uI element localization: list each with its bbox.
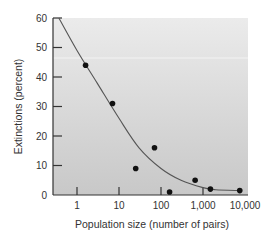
y-tick-label: 40 xyxy=(36,72,48,83)
data-point xyxy=(208,186,214,192)
x-tick-label: 10 xyxy=(113,200,125,211)
x-tick-label: 1 xyxy=(74,200,80,211)
data-point xyxy=(83,62,89,68)
y-tick-label: 20 xyxy=(36,131,48,142)
y-tick-label: 10 xyxy=(36,160,48,171)
y-axis-label: Extinctions (percent) xyxy=(12,59,24,155)
data-point xyxy=(110,101,116,107)
y-tick-label: 50 xyxy=(36,42,48,53)
data-point xyxy=(152,145,158,151)
x-tick-label: 10,000 xyxy=(230,200,261,211)
y-tick-label: 30 xyxy=(36,101,48,112)
data-point xyxy=(133,166,139,172)
data-point xyxy=(192,177,198,183)
x-tick-label: 100 xyxy=(153,200,170,211)
y-tick-label: 60 xyxy=(36,13,48,24)
plot-area xyxy=(53,18,248,195)
data-point xyxy=(167,189,173,195)
y-tick-label: 0 xyxy=(41,190,47,201)
data-point xyxy=(237,188,243,194)
x-axis-label: Population size (number of pairs) xyxy=(75,218,229,230)
extinction-chart: 0102030405060 1101001,00010,000 Populati… xyxy=(0,0,274,241)
x-tick-label: 1,000 xyxy=(190,200,215,211)
